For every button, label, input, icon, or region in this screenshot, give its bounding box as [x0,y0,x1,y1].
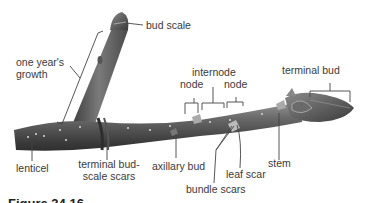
side-branch [70,12,128,132]
main-stem [14,100,302,151]
figure-caption: Figure 34.16 [8,196,84,203]
internode-bracket [202,103,224,110]
node-right-bracket [227,102,243,108]
label-node-right: node [224,78,247,90]
label-leaf-scar: leaf scar [226,168,266,180]
label-terminal-bud-scale-scars-1: terminal bud- [76,158,142,170]
label-node-left: node [180,78,203,90]
label-axillary-bud: axillary bud [152,160,205,172]
label-terminal-bud: terminal bud [282,64,340,76]
label-one-years-growth-2: growth [16,68,48,80]
label-bundle-scars: bundle scars [186,183,246,195]
label-lenticel: lenticel [16,162,49,174]
bud-scale-bud [110,12,128,30]
bud-scale-leader [126,23,143,25]
label-one-years-growth-1: one year's [16,56,64,68]
label-bud-scale: bud scale [146,19,191,31]
terminal-bud [285,88,354,122]
node-left-bracket [185,103,198,114]
twig-diagram: bud scale one year's growth internode no… [0,0,365,203]
label-internode: internode [192,66,236,78]
label-terminal-bud-scale-scars-2: scale scars [76,170,142,182]
label-stem: stem [268,157,291,169]
